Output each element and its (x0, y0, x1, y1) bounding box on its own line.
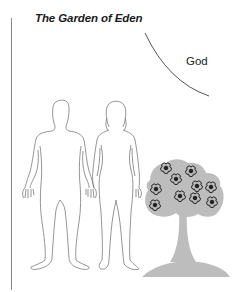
woman-figure (93, 101, 142, 269)
god-curve (145, 33, 209, 96)
tree-trunk (170, 212, 196, 262)
garden-illustration (0, 0, 238, 292)
tree (142, 159, 230, 277)
man-figure (23, 100, 97, 269)
tree-mound (142, 261, 230, 277)
